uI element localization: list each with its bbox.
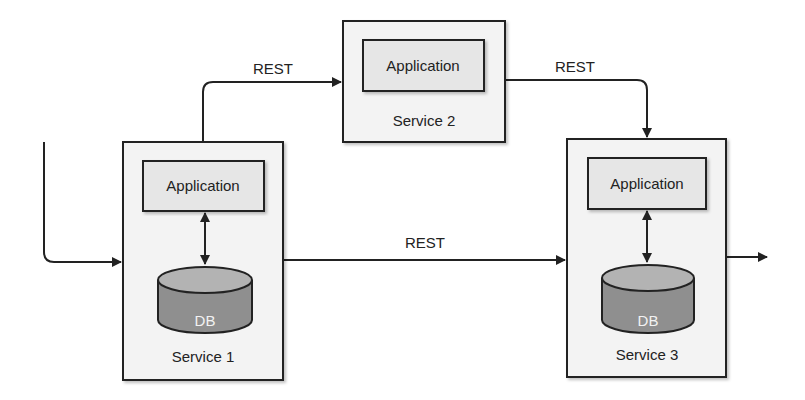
rest-label-s1-s3: REST <box>405 234 445 251</box>
service-1-box: Application DB Service 1 <box>123 142 283 380</box>
service-2-box: Application Service 2 <box>343 21 505 142</box>
service-1-label: Service 1 <box>172 348 235 365</box>
service-1-db-label: DB <box>195 312 216 329</box>
service-1-application-label: Application <box>166 177 239 194</box>
service-3-box: Application DB Service 3 <box>567 139 726 377</box>
rest-label-s2-s3: REST <box>555 58 595 75</box>
microservices-diagram: REST REST REST Application Service 2 App… <box>0 0 805 400</box>
service-3-label: Service 3 <box>616 346 679 363</box>
service-2-label: Service 2 <box>393 112 456 129</box>
arrow-s1-s2 <box>203 82 341 142</box>
service-3-application-label: Application <box>610 175 683 192</box>
rest-label-s1-s2: REST <box>253 60 293 77</box>
arrow-s2-s3 <box>505 80 647 137</box>
incoming-arrow <box>44 142 121 262</box>
service-2-application-label: Application <box>386 57 459 74</box>
service-3-db-label: DB <box>638 312 659 329</box>
